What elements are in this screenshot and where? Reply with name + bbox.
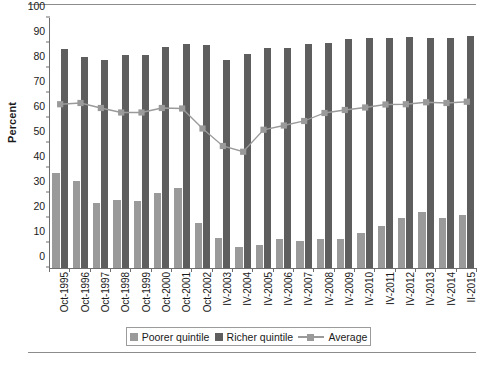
- average-line-marker-icon: [298, 333, 324, 341]
- x-axis-tick-label: IV-2010: [364, 272, 375, 306]
- x-axis-tick-mark: [374, 268, 375, 272]
- legend-item-average: Average: [298, 331, 367, 343]
- y-axis-tick-label: 60: [34, 100, 50, 112]
- average-data-point-marker: [199, 125, 205, 131]
- average-data-point-marker: [403, 101, 409, 107]
- x-axis-tick-mark: [191, 268, 192, 272]
- x-axis-tick-mark: [354, 268, 355, 272]
- average-data-point-marker: [260, 127, 266, 133]
- average-data-point-marker: [382, 101, 388, 107]
- x-axis-tick-label: Oct-2000: [161, 272, 172, 312]
- x-axis-tick-mark: [456, 268, 457, 272]
- average-data-point-marker: [77, 100, 83, 106]
- y-axis-tick-label: 40: [34, 150, 50, 162]
- legend-label-average: Average: [328, 331, 367, 343]
- y-axis-tick-label: 90: [34, 25, 50, 37]
- average-data-point-marker: [57, 101, 63, 107]
- plot-area: 0102030405060708090100: [49, 18, 477, 269]
- y-axis-tick-label: 100: [28, 0, 50, 12]
- legend-label-poorer: Poorer quintile: [142, 331, 210, 343]
- x-axis-tick-label: IV-2009: [344, 272, 355, 306]
- x-axis-tick-label: IV-2006: [283, 272, 294, 306]
- average-data-point-marker: [342, 107, 348, 113]
- x-axis-tick-mark: [273, 268, 274, 272]
- x-axis-tick-mark: [110, 268, 111, 272]
- average-data-point-marker: [423, 99, 429, 105]
- average-data-point-marker: [281, 122, 287, 128]
- x-axis-tick-mark: [435, 268, 436, 272]
- x-axis-tick-mark: [415, 268, 416, 272]
- x-axis-tick-label: Oct-1996: [80, 272, 91, 312]
- x-axis-tick-mark: [252, 268, 253, 272]
- y-axis-tick-label: 70: [34, 75, 50, 87]
- x-axis-tick-label: IV-2013: [425, 272, 436, 306]
- x-axis-tick-label: Oct-1999: [141, 272, 152, 312]
- average-data-point-marker: [118, 109, 124, 115]
- x-axis-tick-mark: [232, 268, 233, 272]
- top-divider-rule: [28, 4, 476, 5]
- x-axis-tick-label: Oct-2002: [202, 272, 213, 312]
- x-axis-tick-mark: [212, 268, 213, 272]
- average-data-point-marker: [362, 104, 368, 110]
- chart-legend: Poorer quintile Richer quintile Average: [126, 327, 371, 346]
- average-data-point-marker: [443, 100, 449, 106]
- x-axis-tick-label: IV-2008: [324, 272, 335, 306]
- legend-item-poorer: Poorer quintile: [130, 331, 210, 343]
- x-axis-tick-mark: [151, 268, 152, 272]
- x-axis-tick-label: IV-2007: [303, 272, 314, 306]
- y-axis-tick-label: 50: [34, 125, 50, 137]
- y-axis-title: Percent: [6, 102, 18, 143]
- x-axis-tick-mark: [395, 268, 396, 272]
- x-axis-tick-mark: [476, 268, 477, 272]
- average-data-point-marker: [159, 105, 165, 111]
- x-axis-tick-mark: [69, 268, 70, 272]
- chart-figure: Percent 0102030405060708090100 Oct-1995O…: [0, 0, 492, 365]
- poorer-quintile-swatch-icon: [130, 333, 138, 341]
- average-data-point-marker: [240, 149, 246, 155]
- y-axis-tick-label: 0: [39, 250, 50, 262]
- average-data-point-marker: [464, 99, 470, 105]
- average-data-point-marker: [138, 109, 144, 115]
- x-axis-tick-label: Oct-1998: [120, 272, 131, 312]
- richer-quintile-swatch-icon: [215, 333, 223, 341]
- x-axis-tick-mark: [90, 268, 91, 272]
- x-axis-tick-label: Oct-2001: [181, 272, 192, 312]
- bottom-divider-rule: [28, 352, 476, 353]
- x-axis-tick-mark: [49, 268, 50, 272]
- x-axis-tick-label: IV-2012: [405, 272, 416, 306]
- x-axis-tick-label: Oct-1997: [100, 272, 111, 312]
- x-axis-tick-label: IV-2011: [385, 272, 396, 305]
- x-axis-tick-label: IV-2003: [222, 272, 233, 306]
- x-axis-tick-label: IV-2014: [446, 272, 457, 306]
- x-axis-tick-label: II-2015: [466, 272, 477, 302]
- average-data-point-marker: [98, 105, 104, 111]
- x-axis-tick-mark: [313, 268, 314, 272]
- average-data-point-marker: [220, 143, 226, 149]
- x-axis-tick-label: Oct-1995: [59, 272, 70, 312]
- legend-label-richer: Richer quintile: [227, 331, 294, 343]
- x-axis-tick-mark: [334, 268, 335, 272]
- y-axis-tick-label: 10: [34, 225, 50, 237]
- x-axis-tick-mark: [293, 268, 294, 272]
- y-axis-tick-label: 80: [34, 50, 50, 62]
- y-axis-tick-label: 30: [34, 175, 50, 187]
- x-axis-tick-mark: [130, 268, 131, 272]
- x-axis-tick-label: IV-2005: [263, 272, 274, 306]
- x-axis-tick-mark: [171, 268, 172, 272]
- legend-item-richer: Richer quintile: [215, 331, 294, 343]
- average-data-point-marker: [179, 105, 185, 111]
- y-axis-tick-label: 20: [34, 200, 50, 212]
- average-data-point-marker: [301, 118, 307, 124]
- average-data-point-marker: [321, 110, 327, 116]
- x-axis-tick-label: IV-2004: [242, 272, 253, 306]
- average-line-series: [50, 18, 477, 268]
